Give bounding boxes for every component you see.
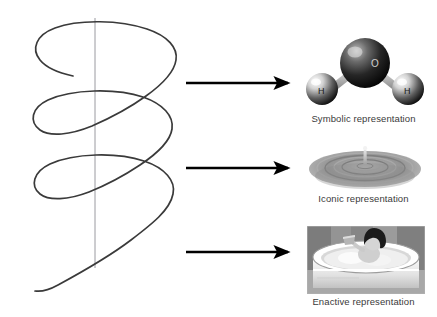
water-droplet-splash: [363, 146, 367, 165]
caption-iconic: Iconic representation: [290, 193, 437, 204]
water-molecule-illustration: O H H: [300, 33, 430, 108]
hydrogen-label-left: H: [318, 86, 325, 96]
caption-enactive: Enactive representation: [290, 296, 437, 307]
spiral-representations-figure: O H H Symbolic representation: [0, 0, 437, 317]
hydrogen-atom-left: H: [306, 73, 338, 105]
hydrogen-label-right: H: [404, 86, 411, 96]
oxygen-label: O: [371, 58, 379, 69]
caption-symbolic: Symbolic representation: [290, 113, 437, 124]
water-ripple-illustration: [300, 146, 430, 190]
oxygen-atom: O: [340, 38, 390, 88]
spiral-curve: [33, 22, 176, 292]
hydrogen-atom-right: H: [392, 73, 424, 105]
child-in-bathtub-illustration: [307, 226, 425, 294]
